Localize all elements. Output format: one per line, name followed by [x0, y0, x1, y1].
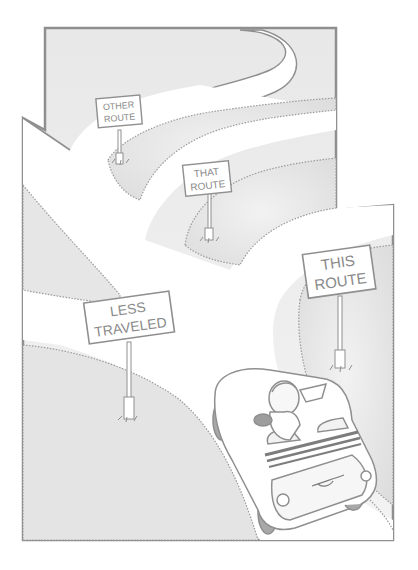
right-headlight [361, 471, 371, 481]
road-fork-illustration: OTHER ROUTE THAT ROUTE LESS TRAVELED THI… [0, 0, 418, 570]
left-headlight [277, 494, 289, 506]
steering-wheel [254, 414, 272, 426]
